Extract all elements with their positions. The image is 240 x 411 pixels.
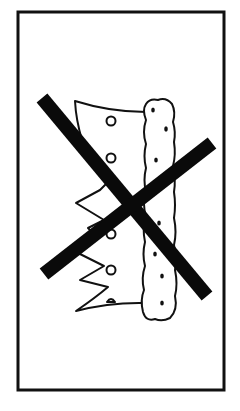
prohibition-sign: No crown xyxy=(0,0,240,411)
